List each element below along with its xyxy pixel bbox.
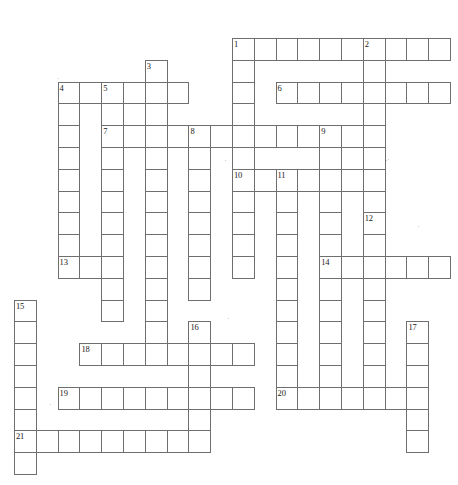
crossword-cell-numbered-1[interactable]: 1 <box>232 38 255 61</box>
crossword-cell[interactable] <box>167 430 190 453</box>
crossword-cell[interactable] <box>363 103 386 126</box>
crossword-cell[interactable] <box>101 212 124 235</box>
crossword-cell[interactable] <box>145 212 168 235</box>
crossword-cell[interactable] <box>319 343 342 366</box>
crossword-cell-numbered-7[interactable]: 7 <box>101 125 124 148</box>
crossword-cell[interactable] <box>363 300 386 323</box>
crossword-cell[interactable] <box>363 60 386 83</box>
crossword-cell[interactable] <box>319 387 342 410</box>
crossword-cell[interactable] <box>79 430 102 453</box>
crossword-cell[interactable] <box>232 147 255 170</box>
crossword-cell[interactable] <box>188 430 211 453</box>
crossword-cell-numbered-18[interactable]: 18 <box>79 343 102 366</box>
crossword-cell[interactable] <box>276 278 299 301</box>
crossword-cell[interactable] <box>101 147 124 170</box>
crossword-cell[interactable] <box>319 212 342 235</box>
crossword-cell[interactable] <box>188 169 211 192</box>
crossword-cell-numbered-21[interactable]: 21 <box>14 430 37 453</box>
crossword-cell[interactable] <box>58 191 81 214</box>
crossword-cell[interactable] <box>188 343 211 366</box>
crossword-cell[interactable] <box>79 387 102 410</box>
crossword-cell[interactable] <box>210 387 233 410</box>
crossword-cell[interactable] <box>276 343 299 366</box>
crossword-cell[interactable] <box>341 256 364 279</box>
crossword-cell[interactable] <box>428 82 451 105</box>
crossword-cell[interactable] <box>188 256 211 279</box>
crossword-cell-numbered-19[interactable]: 19 <box>58 387 81 410</box>
crossword-cell[interactable] <box>101 278 124 301</box>
crossword-cell[interactable] <box>363 365 386 388</box>
crossword-cell[interactable] <box>145 256 168 279</box>
crossword-cell[interactable] <box>101 234 124 257</box>
crossword-cell-numbered-4[interactable]: 4 <box>58 82 81 105</box>
crossword-cell[interactable] <box>101 300 124 323</box>
crossword-cell[interactable] <box>363 321 386 344</box>
crossword-cell[interactable] <box>276 365 299 388</box>
crossword-cell[interactable] <box>188 409 211 432</box>
crossword-cell[interactable] <box>406 82 429 105</box>
crossword-cell[interactable] <box>319 191 342 214</box>
crossword-cell[interactable] <box>232 387 255 410</box>
crossword-cell[interactable] <box>341 387 364 410</box>
crossword-cell[interactable] <box>319 321 342 344</box>
crossword-cell[interactable] <box>363 278 386 301</box>
crossword-cell[interactable] <box>58 169 81 192</box>
crossword-cell[interactable] <box>341 169 364 192</box>
crossword-cell[interactable] <box>145 387 168 410</box>
crossword-cell[interactable] <box>276 191 299 214</box>
crossword-cell[interactable] <box>188 387 211 410</box>
crossword-cell[interactable] <box>297 169 320 192</box>
crossword-cell[interactable] <box>297 387 320 410</box>
crossword-cell[interactable] <box>254 125 277 148</box>
crossword-cell[interactable] <box>385 387 408 410</box>
crossword-cell-numbered-2[interactable]: 2 <box>363 38 386 61</box>
crossword-cell[interactable] <box>123 343 146 366</box>
crossword-cell[interactable] <box>188 234 211 257</box>
crossword-cell[interactable] <box>363 82 386 105</box>
crossword-cell-numbered-10[interactable]: 10 <box>232 169 255 192</box>
crossword-cell[interactable] <box>14 365 37 388</box>
crossword-grid[interactable]: 123456789101112131415161718192021 <box>0 0 458 485</box>
crossword-cell[interactable] <box>123 82 146 105</box>
crossword-cell[interactable] <box>276 212 299 235</box>
crossword-cell[interactable] <box>363 191 386 214</box>
crossword-cell[interactable] <box>319 147 342 170</box>
crossword-cell[interactable] <box>188 212 211 235</box>
crossword-cell[interactable] <box>58 234 81 257</box>
crossword-cell[interactable] <box>276 38 299 61</box>
crossword-cell[interactable] <box>58 125 81 148</box>
crossword-cell[interactable] <box>406 409 429 432</box>
crossword-cell-numbered-20[interactable]: 20 <box>276 387 299 410</box>
crossword-cell[interactable] <box>167 343 190 366</box>
crossword-cell-numbered-8[interactable]: 8 <box>188 125 211 148</box>
crossword-cell[interactable] <box>297 82 320 105</box>
crossword-cell[interactable] <box>276 300 299 323</box>
crossword-cell[interactable] <box>188 191 211 214</box>
crossword-cell[interactable] <box>188 147 211 170</box>
crossword-cell[interactable] <box>145 191 168 214</box>
crossword-cell[interactable] <box>101 169 124 192</box>
crossword-cell[interactable] <box>58 103 81 126</box>
crossword-cell-numbered-14[interactable]: 14 <box>319 256 342 279</box>
crossword-cell[interactable] <box>188 278 211 301</box>
crossword-cell[interactable] <box>232 212 255 235</box>
crossword-cell[interactable] <box>36 430 59 453</box>
crossword-cell[interactable] <box>319 234 342 257</box>
crossword-cell[interactable] <box>385 256 408 279</box>
crossword-cell[interactable] <box>101 430 124 453</box>
crossword-cell[interactable] <box>341 38 364 61</box>
crossword-cell-numbered-5[interactable]: 5 <box>101 82 124 105</box>
crossword-cell[interactable] <box>145 278 168 301</box>
crossword-cell[interactable] <box>385 82 408 105</box>
crossword-cell[interactable] <box>123 387 146 410</box>
crossword-cell-numbered-3[interactable]: 3 <box>145 60 168 83</box>
crossword-cell[interactable] <box>14 409 37 432</box>
crossword-cell[interactable] <box>406 343 429 366</box>
crossword-cell[interactable] <box>406 38 429 61</box>
crossword-cell[interactable] <box>101 387 124 410</box>
crossword-cell[interactable] <box>145 321 168 344</box>
crossword-cell[interactable] <box>406 430 429 453</box>
crossword-cell[interactable] <box>79 256 102 279</box>
crossword-cell[interactable] <box>385 38 408 61</box>
crossword-cell[interactable] <box>254 169 277 192</box>
